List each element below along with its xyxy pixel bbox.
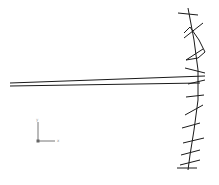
beam-upper-line [10, 76, 205, 83]
arc-spine [188, 8, 198, 170]
beam-lower-line [10, 83, 200, 86]
structural-diagram-canvas [0, 0, 219, 185]
axis-origin-marker [37, 140, 40, 143]
y-axis-label: y [36, 117, 38, 122]
tick-marks [177, 13, 205, 168]
x-axis-label: x [57, 138, 59, 143]
axis-triad [37, 122, 56, 143]
